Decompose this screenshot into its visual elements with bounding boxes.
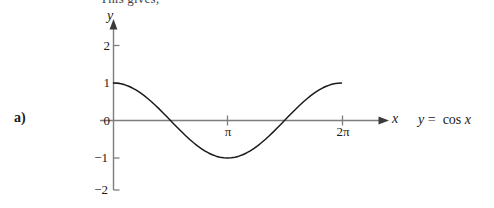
cosine-plot [0, 0, 494, 208]
x-axis-label: x [392, 111, 398, 127]
y-tick-marks [114, 46, 120, 191]
y-tick-label-2: 2 [84, 38, 110, 54]
equation-rhs: cos x [439, 112, 471, 127]
equation-lhs: y [418, 112, 424, 127]
equation-operator: = [428, 112, 436, 127]
x-tick-label-2pi: 2π [331, 124, 355, 140]
equation-label: y = cos x [418, 112, 471, 128]
arrow-right-icon [379, 117, 390, 125]
y-axis-label: y [107, 8, 113, 24]
y-tick-label-0: 0 [84, 113, 110, 129]
y-tick-label-1: 1 [84, 75, 110, 91]
x-tick-label-pi: π [216, 124, 240, 140]
y-tick-label-minus-1: −1 [82, 150, 108, 166]
y-tick-label-minus-2: −2 [82, 182, 108, 198]
plot-svg [0, 0, 494, 208]
